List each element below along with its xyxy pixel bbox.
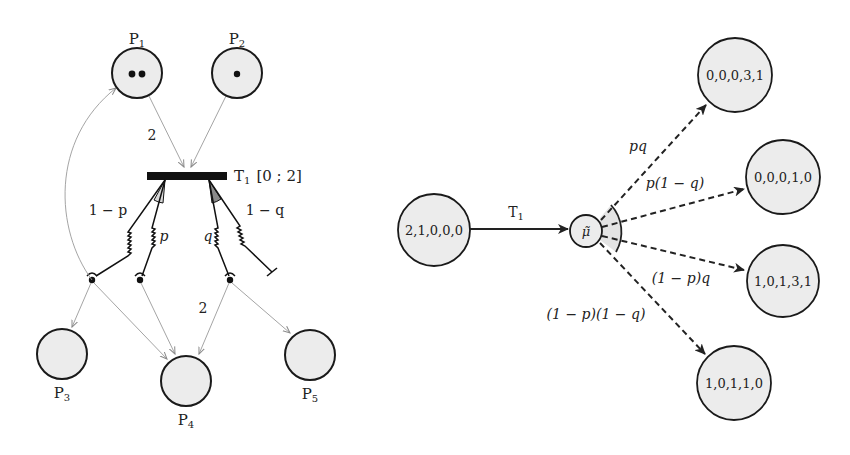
branch-1-minus-q xyxy=(209,180,272,272)
state-target-3: 1,0,1,3,1 xyxy=(747,245,819,317)
prob-label-1-p-1-q: (1 − p)(1 − q) xyxy=(547,306,646,322)
place-p5: P5 xyxy=(285,330,335,404)
prob-label-p-1-q: p(1 − q) xyxy=(646,175,704,191)
place-p1: P1 xyxy=(112,30,162,98)
arc-to-p5 xyxy=(232,283,290,333)
branch-1-minus-p xyxy=(96,180,165,276)
svg-text:P2: P2 xyxy=(229,30,245,49)
svg-text:P1: P1 xyxy=(129,30,145,49)
state-start: 2,1,0,0,0 xyxy=(398,194,470,266)
petri-net-figure: 2 T1[0 ; 2] 1 − p p q 1 − q xyxy=(0,0,850,455)
svg-text:0,0,0,3,1: 0,0,0,3,1 xyxy=(706,68,764,83)
prob-label-pq: pq xyxy=(629,138,647,154)
branch-end-dots xyxy=(87,273,235,283)
transition-t1-bar xyxy=(147,172,227,180)
input-weight-label: 2 xyxy=(148,127,157,143)
arc-to-p4-a xyxy=(94,283,167,359)
place-p4: P4 xyxy=(161,356,211,430)
prob-arrow-1-p-1-q xyxy=(600,243,705,354)
svg-text:2,1,0,0,0: 2,1,0,0,0 xyxy=(405,223,463,238)
output-weight-label: 2 xyxy=(199,300,208,316)
arc-p2-to-t1 xyxy=(191,96,226,167)
arc-to-p4-b xyxy=(141,283,175,354)
arc-to-p4-c xyxy=(199,283,229,354)
svg-text:P5: P5 xyxy=(302,385,318,404)
state-target-2: 0,0,0,1,0 xyxy=(746,140,820,214)
svg-text:P3: P3 xyxy=(54,384,70,403)
svg-text:μ̃: μ̃ xyxy=(582,224,590,239)
branch-label-p: p xyxy=(160,228,169,244)
transition-arrow-label: T1 xyxy=(508,204,524,222)
svg-text:0,0,0,1,0: 0,0,0,1,0 xyxy=(754,170,812,185)
state-target-4: 1,0,1,1,0 xyxy=(697,346,771,420)
branch-label-1-minus-p: 1 − p xyxy=(89,202,128,218)
left-petri-net: 2 T1[0 ; 2] 1 − p p q 1 − q xyxy=(37,30,335,430)
right-state-graph: 2,1,0,0,0 T1 μ̃ pq p(1 − q) (1 − p)q (1 … xyxy=(398,38,820,420)
branch-label-1-minus-q: 1 − q xyxy=(246,202,285,218)
arc-to-p3 xyxy=(72,283,91,327)
arc-back-to-p1 xyxy=(65,88,116,280)
transition-t1-label: T1[0 ; 2] xyxy=(234,167,302,186)
place-p2: P2 xyxy=(212,30,262,98)
prob-label-1-p-q: (1 − p)q xyxy=(652,270,710,286)
state-target-1: 0,0,0,3,1 xyxy=(698,38,772,112)
svg-text:1,0,1,1,0: 1,0,1,1,0 xyxy=(705,376,763,391)
branch-label-q: q xyxy=(204,228,213,244)
place-p3: P3 xyxy=(37,329,87,403)
svg-text:1,0,1,3,1: 1,0,1,3,1 xyxy=(754,274,812,289)
prob-arrow-1-p-q xyxy=(602,236,744,270)
svg-text:P4: P4 xyxy=(178,411,194,430)
state-mu-tilde: μ̃ xyxy=(570,215,602,247)
